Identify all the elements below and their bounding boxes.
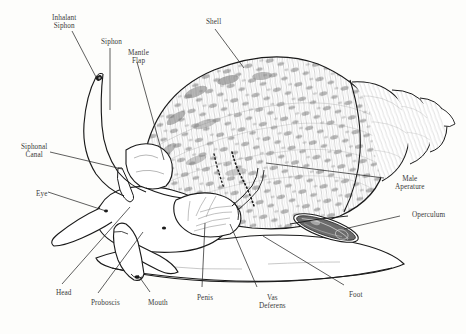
eye-spot-right bbox=[162, 227, 166, 230]
label-foot-line-0: Foot bbox=[349, 291, 363, 299]
label-inhalant-siphon-line-0: Inhalant bbox=[52, 14, 76, 22]
label-male-aperature-line-0: Male bbox=[395, 175, 425, 183]
label-siphonal-canal-line-0: Siphonal bbox=[21, 143, 47, 151]
label-shell-line-0: Shell bbox=[206, 18, 221, 26]
label-mantle-flap-line-0: Mantle bbox=[128, 49, 149, 57]
label-siphon: Siphon bbox=[101, 38, 122, 46]
label-mantle-flap: MantleFlap bbox=[128, 49, 149, 66]
leader-eye bbox=[48, 192, 106, 211]
label-inhalant-siphon: InhalantSiphon bbox=[52, 14, 76, 31]
label-vas-deferens-line-1: Deferens bbox=[259, 302, 286, 310]
leader-operculum bbox=[344, 216, 400, 229]
label-male-aperature-line-1: Aperature bbox=[395, 183, 425, 191]
snail-anatomy-drawing bbox=[0, 0, 466, 334]
label-inhalant-siphon-line-1: Siphon bbox=[52, 22, 76, 30]
label-siphon-line-0: Siphon bbox=[101, 38, 122, 46]
tentacle-upper bbox=[52, 208, 112, 246]
label-vas-deferens-line-0: Vas bbox=[259, 294, 286, 302]
label-siphonal-canal-line-1: Canal bbox=[21, 151, 47, 159]
label-mouth-line-0: Mouth bbox=[148, 299, 168, 307]
label-siphonal-canal: SiphonalCanal bbox=[21, 143, 47, 160]
label-head-line-0: Head bbox=[56, 289, 72, 297]
label-shell: Shell bbox=[206, 18, 221, 26]
label-proboscis-line-0: Proboscis bbox=[91, 299, 120, 307]
leader-shell bbox=[215, 29, 244, 68]
label-penis: Penis bbox=[197, 294, 213, 302]
label-male-aperature: MaleAperature bbox=[395, 175, 425, 192]
label-eye-line-0: Eye bbox=[36, 190, 47, 198]
label-eye: Eye bbox=[36, 190, 47, 198]
label-penis-line-0: Penis bbox=[197, 294, 213, 302]
leader-mouth bbox=[138, 275, 150, 292]
label-mantle-flap-line-1: Flap bbox=[128, 57, 149, 65]
label-foot: Foot bbox=[349, 291, 363, 299]
label-head: Head bbox=[56, 289, 72, 297]
label-operculum: Operculum bbox=[412, 211, 445, 219]
snail-anatomy-figure: InhalantSiphonSiphonMantleFlapShellSipho… bbox=[0, 0, 466, 334]
label-proboscis: Proboscis bbox=[91, 299, 120, 307]
label-operculum-line-0: Operculum bbox=[412, 211, 445, 219]
label-mouth: Mouth bbox=[148, 299, 168, 307]
label-vas-deferens: VasDeferens bbox=[259, 294, 286, 311]
leader-inhalant-siphon bbox=[72, 31, 96, 77]
